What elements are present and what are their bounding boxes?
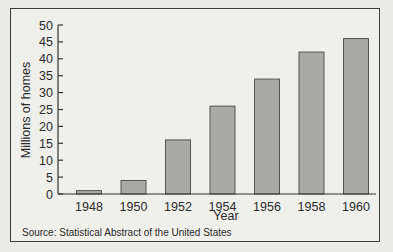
y-tick-label: 30 xyxy=(39,86,53,100)
x-tick-label: 1950 xyxy=(120,200,148,214)
y-tick-label: 35 xyxy=(39,69,53,83)
y-tick-label: 45 xyxy=(39,35,53,49)
bar-1958 xyxy=(299,52,324,194)
y-tick-label: 0 xyxy=(46,188,53,202)
bar-1960 xyxy=(344,39,369,194)
bar-1950 xyxy=(121,180,146,194)
y-tick-label: 15 xyxy=(39,137,53,151)
y-tick-label: 10 xyxy=(39,154,53,168)
y-axis: 05101520253035404550 xyxy=(39,19,63,202)
y-axis-title: Millions of homes xyxy=(19,62,33,159)
x-tick-label: 1948 xyxy=(75,200,103,214)
y-tick-label: 25 xyxy=(39,103,53,117)
bar-chart: 05101520253035404550 1948195019521954195… xyxy=(0,0,393,252)
y-tick-label: 20 xyxy=(39,120,53,134)
bar-1954 xyxy=(210,106,235,194)
bar-1956 xyxy=(255,79,280,194)
x-tick-label: 1958 xyxy=(298,200,326,214)
y-tick-label: 50 xyxy=(39,19,53,33)
bar-1952 xyxy=(166,140,191,194)
y-tick-label: 5 xyxy=(46,171,53,185)
x-axis-title: Year xyxy=(213,209,238,223)
x-tick-label: 1952 xyxy=(164,200,192,214)
x-tick-label: 1960 xyxy=(342,200,370,214)
x-tick-label: 1956 xyxy=(253,200,281,214)
bars xyxy=(77,39,369,194)
source-note: Source: Statistical Abstract of the Unit… xyxy=(22,227,232,238)
y-tick-label: 40 xyxy=(39,52,53,66)
